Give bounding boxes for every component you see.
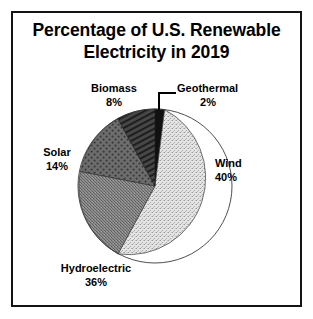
chart-page: Percentage of U.S. Renewable Electricity…	[0, 0, 313, 319]
pie-label-hydroelectric: Hydroelectric 36%	[36, 262, 156, 290]
pie-label-geothermal-value: 2%	[177, 96, 239, 110]
pie-label-geothermal: Geothermal 2%	[177, 82, 267, 110]
pie-label-wind-name: Wind	[215, 157, 242, 169]
pie-label-wind-value: 40%	[215, 171, 277, 185]
pie-label-biomass-value: 8%	[78, 96, 150, 110]
pie-label-solar-name: Solar	[43, 146, 71, 158]
pie-label-wind: Wind 40%	[215, 157, 277, 185]
pie-label-hydroelectric-value: 36%	[36, 276, 156, 290]
pie-label-geothermal-name: Geothermal	[177, 82, 238, 94]
pie-label-hydroelectric-name: Hydroelectric	[61, 262, 131, 274]
pie-label-biomass-name: Biomass	[91, 82, 137, 94]
geothermal-leader-line	[159, 93, 176, 110]
pie-label-biomass: Biomass 8%	[78, 82, 150, 110]
pie-label-solar-value: 14%	[26, 160, 88, 174]
pie-label-solar: Solar 14%	[26, 146, 88, 174]
